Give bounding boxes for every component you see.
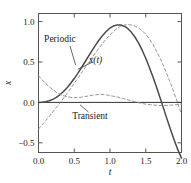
- series-transient: [39, 76, 182, 106]
- annotation-xt: x(t): [88, 55, 102, 66]
- chart-plot: 0.00.51.01.52.0−0.50.00.51.0 Periodicx(t…: [0, 0, 191, 183]
- leader-periodic: [70, 46, 76, 65]
- xtick-label-2: 1.0: [104, 156, 116, 166]
- ytick-label-1: 0.0: [23, 98, 35, 108]
- xtick-label-3: 1.5: [140, 156, 152, 166]
- figure-container: 0.00.51.01.52.0−0.50.00.51.0 Periodicx(t…: [0, 0, 191, 183]
- xtick-label-0: 0.0: [33, 156, 45, 166]
- annotation-periodic: Periodic: [44, 34, 76, 44]
- xtick-label-1: 0.5: [69, 156, 81, 166]
- y-axis-title: x: [3, 80, 13, 86]
- ytick-label-0: −0.5: [18, 138, 35, 148]
- ytick-label-3: 1.0: [23, 17, 35, 27]
- x-axis-title: t: [109, 167, 112, 177]
- ytick-label-2: 0.5: [23, 57, 35, 67]
- annotation-transient: Transient: [72, 111, 108, 121]
- annotations: Periodicx(t)Transient: [44, 34, 108, 121]
- series-xt: [39, 25, 182, 158]
- data-series: [39, 25, 182, 159]
